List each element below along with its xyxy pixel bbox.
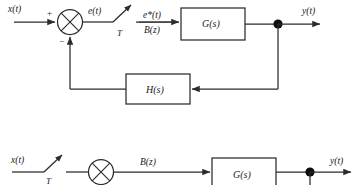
label-z-transform: B(z) [144,25,160,36]
label-block-hs: H(s) [145,84,164,96]
label-sum-minus: − [59,36,64,46]
label-input-xt-bottom: x(t) [10,155,24,166]
label-output-yt-bottom: y(t) [329,156,343,167]
label-sampled-signal: e*(t) [143,10,161,21]
top-diagram-group: x(t) + − e(t) T e*(t) B(z) G(s) H(s) y(t… [7,4,320,104]
label-block-gs-bottom: G(s) [233,169,251,181]
label-z-transform-bottom: B(z) [140,157,156,168]
figure-canvas: x(t) + − e(t) T e*(t) B(z) G(s) H(s) y(t… [0,0,357,185]
label-input-xt: x(t) [7,4,21,15]
sampler-switch-blade-bottom [44,155,62,172]
sampler-switch-blade [113,5,131,22]
block-diagram-svg: x(t) + − e(t) T e*(t) B(z) G(s) H(s) y(t… [0,0,357,185]
label-error-et: e(t) [88,6,101,17]
label-output-yt: y(t) [301,6,315,17]
label-block-gs: G(s) [202,18,220,30]
bottom-diagram-group: x(t) T B(z) G(s) y(t) [10,155,351,185]
label-sampler-period-t-bottom: T [46,176,52,185]
label-sampler-period-t: T [117,28,123,38]
label-sum-plus: + [47,8,52,18]
